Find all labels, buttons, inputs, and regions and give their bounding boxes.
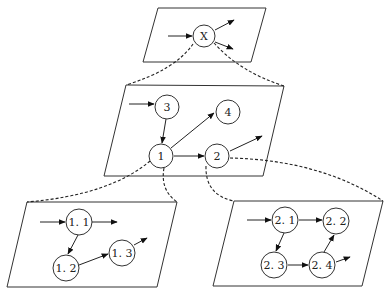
svg-text:2. 3: 2. 3 — [264, 259, 285, 272]
svg-text:2. 1: 2. 1 — [275, 214, 296, 227]
node-x: X — [193, 25, 215, 47]
node-1-1: 1. 1 — [66, 209, 92, 235]
svg-text:2: 2 — [214, 150, 221, 163]
node-2-4: 2. 4 — [309, 252, 335, 278]
svg-text:1. 2: 1. 2 — [56, 262, 77, 275]
panel-middle — [104, 85, 284, 176]
node-3: 3 — [155, 95, 179, 119]
svg-text:2. 2: 2. 2 — [326, 215, 347, 228]
svg-text:X: X — [200, 30, 208, 43]
node-2-1: 2. 1 — [272, 207, 298, 233]
node-2-2: 2. 2 — [323, 208, 349, 234]
svg-text:3: 3 — [164, 101, 171, 114]
svg-text:4: 4 — [225, 106, 232, 119]
node-2: 2 — [205, 144, 229, 168]
svg-text:1. 3: 1. 3 — [112, 247, 133, 260]
node-1-3: 1. 3 — [109, 240, 135, 266]
svg-text:1. 1: 1. 1 — [69, 216, 90, 229]
node-1: 1 — [149, 144, 173, 168]
panel-bottom-left — [7, 202, 177, 287]
svg-text:1: 1 — [158, 150, 165, 163]
node-1-2: 1. 2 — [53, 255, 79, 281]
decomposition-diagram: X 3 4 1 2 1. 1 1. 2 1. 3 2. 1 2. 2 2. 3 — [0, 0, 391, 294]
node-2-3: 2. 3 — [261, 252, 287, 278]
svg-text:2. 4: 2. 4 — [312, 259, 333, 272]
node-4: 4 — [216, 100, 240, 124]
panel-bottom-right — [213, 201, 383, 286]
